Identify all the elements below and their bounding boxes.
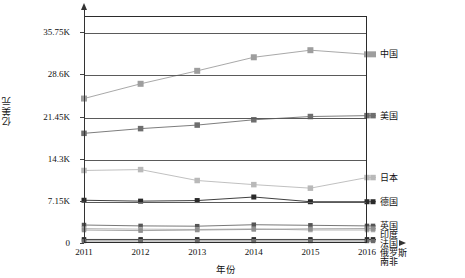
x-axis-tick-label: 2013 <box>188 247 206 257</box>
x-axis-tick-label: 2012 <box>132 247 150 257</box>
series-label-0: 中国 <box>380 50 398 59</box>
x-axis-arrow-icon <box>399 240 406 246</box>
y-axis-tickmark <box>80 243 84 244</box>
gridline <box>85 202 366 203</box>
line-chart: 亿美元 07.15K14.3K21.45K28.6K35.75K 2011201… <box>0 0 465 278</box>
gridline <box>85 160 366 161</box>
y-axis-arrow-icon <box>81 3 87 10</box>
x-axis-tick-label: 2011 <box>75 247 93 257</box>
plot-area <box>84 16 367 243</box>
series-legend-marker <box>371 239 376 244</box>
series-label-1: 美国 <box>380 111 398 120</box>
series-legend-marker <box>371 199 376 204</box>
x-axis-tick-label: 2015 <box>301 247 319 257</box>
series-label-6: 印度 <box>380 230 398 239</box>
series-legend-marker <box>370 113 376 119</box>
series-label-2: 日本 <box>380 173 398 182</box>
series-legend-marker <box>370 51 376 57</box>
x-axis-tick-label: 2014 <box>245 247 263 257</box>
series-label-8: 南非 <box>380 257 398 266</box>
x-axis-title: 年份 <box>216 262 236 276</box>
series-label-3: 德国 <box>380 197 398 206</box>
gridline <box>85 33 366 34</box>
series-legend-marker <box>371 226 376 231</box>
y-axis-line <box>84 10 85 243</box>
series-legend-marker <box>370 175 376 181</box>
gridline <box>85 75 366 76</box>
gridline <box>85 118 366 119</box>
x-axis-tick-label: 2016 <box>358 247 376 257</box>
